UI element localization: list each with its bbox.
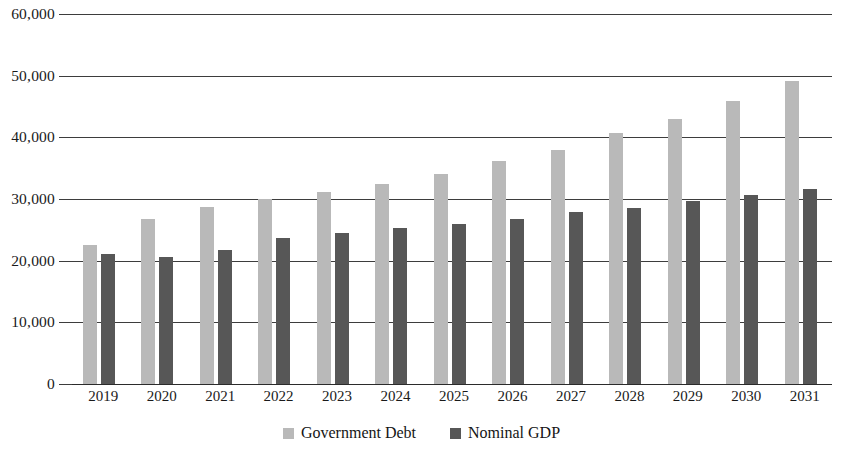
bar-nominal-gdp-2026[interactable] <box>510 219 524 384</box>
legend-swatch-icon <box>450 428 461 439</box>
x-axis-label-2030: 2030 <box>716 388 776 405</box>
y-axis-tick-label: 40,000 <box>11 128 55 146</box>
y-axis-tick-label: 10,000 <box>11 313 55 331</box>
bar-government-debt-2026[interactable] <box>492 161 506 384</box>
bar-nominal-gdp-2030[interactable] <box>744 195 758 384</box>
bar-group <box>722 14 780 384</box>
bar-nominal-gdp-2019[interactable] <box>101 254 115 384</box>
y-axis-tick <box>59 322 72 323</box>
bar-government-debt-2027[interactable] <box>551 150 565 384</box>
y-axis-tick <box>59 384 72 385</box>
x-axis-label-2019: 2019 <box>73 388 133 405</box>
bar-nominal-gdp-2020[interactable] <box>159 257 173 384</box>
x-axis-label-2023: 2023 <box>307 388 367 405</box>
bars-layer <box>72 14 832 384</box>
bar-nominal-gdp-2024[interactable] <box>393 228 407 384</box>
x-axis-label-2027: 2027 <box>541 388 601 405</box>
bar-group <box>254 14 312 384</box>
x-axis-label-2028: 2028 <box>599 388 659 405</box>
y-axis-tick-label: 30,000 <box>11 190 55 208</box>
x-axis-label-2024: 2024 <box>366 388 426 405</box>
bar-government-debt-2023[interactable] <box>317 192 331 384</box>
bar-nominal-gdp-2029[interactable] <box>686 201 700 384</box>
bar-group <box>313 14 371 384</box>
y-axis-tick-label: 20,000 <box>11 252 55 270</box>
bar-nominal-gdp-2031[interactable] <box>803 189 817 384</box>
y-axis-tick-label: 0 <box>47 375 55 393</box>
legend-entry-government-debt[interactable]: Government Debt <box>283 424 416 442</box>
bar-group <box>547 14 605 384</box>
bar-nominal-gdp-2021[interactable] <box>218 250 232 384</box>
y-axis-tick <box>59 261 72 262</box>
legend-label: Government Debt <box>301 424 416 442</box>
legend-swatch-icon <box>283 428 294 439</box>
bar-government-debt-2025[interactable] <box>434 174 448 384</box>
y-axis-tick <box>59 14 72 15</box>
y-axis-tick <box>59 199 72 200</box>
y-axis-tick-label: 60,000 <box>11 5 55 23</box>
chart-legend: Government DebtNominal GDP <box>0 424 843 442</box>
bar-government-debt-2031[interactable] <box>785 81 799 384</box>
x-axis-label-2021: 2021 <box>190 388 250 405</box>
x-axis-label-2029: 2029 <box>658 388 718 405</box>
x-axis-labels: 2019202020212022202320242025202620272028… <box>72 388 832 414</box>
bar-group <box>781 14 839 384</box>
bar-government-debt-2029[interactable] <box>668 119 682 384</box>
bar-group <box>430 14 488 384</box>
x-axis-label-2020: 2020 <box>132 388 192 405</box>
bar-government-debt-2019[interactable] <box>83 245 97 384</box>
gridline <box>72 384 832 385</box>
bar-group <box>371 14 429 384</box>
bar-group <box>79 14 137 384</box>
bar-nominal-gdp-2023[interactable] <box>335 233 349 384</box>
bar-nominal-gdp-2025[interactable] <box>452 224 466 384</box>
bar-nominal-gdp-2027[interactable] <box>569 212 583 384</box>
y-axis-tick <box>59 76 72 77</box>
legend-label: Nominal GDP <box>468 424 560 442</box>
bar-government-debt-2021[interactable] <box>200 207 214 384</box>
x-axis-label-2031: 2031 <box>775 388 835 405</box>
bar-group <box>137 14 195 384</box>
bar-group <box>605 14 663 384</box>
legend-entry-nominal-gdp[interactable]: Nominal GDP <box>450 424 560 442</box>
x-axis-label-2026: 2026 <box>482 388 542 405</box>
bar-group <box>488 14 546 384</box>
bar-nominal-gdp-2022[interactable] <box>276 238 290 384</box>
x-axis-label-2022: 2022 <box>249 388 309 405</box>
bar-group <box>664 14 722 384</box>
bar-government-debt-2028[interactable] <box>609 133 623 384</box>
bar-chart: 010,00020,00030,00040,00050,00060,000 20… <box>0 0 843 455</box>
x-axis-label-2025: 2025 <box>424 388 484 405</box>
y-axis-tick-label: 50,000 <box>11 67 55 85</box>
bar-nominal-gdp-2028[interactable] <box>627 208 641 384</box>
bar-government-debt-2030[interactable] <box>726 101 740 384</box>
bar-government-debt-2024[interactable] <box>375 184 389 384</box>
plot-area: 010,00020,00030,00040,00050,00060,000 <box>72 14 832 384</box>
bar-government-debt-2022[interactable] <box>258 199 272 384</box>
bar-group <box>196 14 254 384</box>
y-axis-tick <box>59 137 72 138</box>
bar-government-debt-2020[interactable] <box>141 219 155 384</box>
